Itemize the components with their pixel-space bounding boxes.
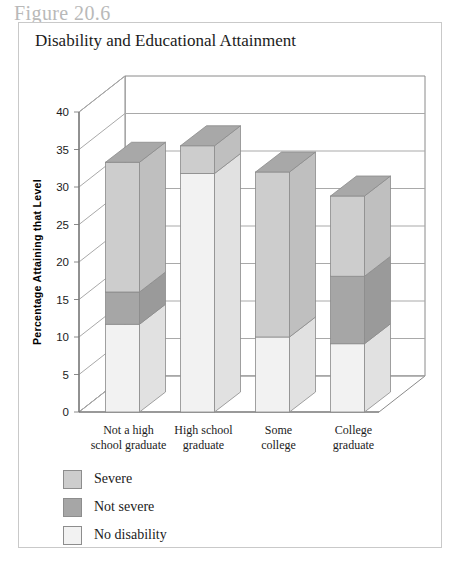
legend-swatch-no-disability bbox=[63, 526, 82, 545]
bar-column bbox=[181, 126, 241, 412]
bar-column bbox=[106, 142, 166, 412]
bar-segment-front bbox=[331, 196, 365, 276]
y-tick-label: 0 bbox=[63, 406, 69, 418]
bar-segment-front bbox=[181, 174, 215, 413]
chart-title: Disability and Educational Attainment bbox=[35, 31, 296, 51]
bar-segment-side bbox=[140, 142, 166, 292]
legend-swatch-not-severe bbox=[63, 498, 82, 517]
x-category-label: Some bbox=[265, 423, 292, 437]
legend-label-no-disability: No disability bbox=[94, 527, 167, 543]
chart-legend: Severe Not severe No disability bbox=[63, 465, 167, 549]
legend-label-severe: Severe bbox=[94, 471, 132, 487]
chart-plot-area: 0510152025303540Not a highschool graduat… bbox=[19, 57, 443, 457]
figure-panel: Disability and Educational Attainment 05… bbox=[18, 22, 442, 548]
stacked-3d-bar-chart: 0510152025303540Not a highschool graduat… bbox=[19, 57, 443, 457]
bar-segment-front bbox=[331, 344, 365, 412]
x-category-label: Not a high bbox=[103, 423, 154, 437]
legend-item-not-severe: Not severe bbox=[63, 493, 167, 521]
bar-segment-side bbox=[290, 152, 316, 337]
y-tick-label: 25 bbox=[56, 219, 69, 231]
x-category-label: High school bbox=[174, 423, 233, 437]
y-tick-label: 40 bbox=[56, 106, 69, 118]
y-tick-label: 10 bbox=[56, 331, 69, 343]
figure-root: Figure 20.6 Disability and Educational A… bbox=[0, 0, 461, 563]
bar-column bbox=[331, 176, 391, 412]
x-category-label: graduate bbox=[333, 438, 374, 452]
x-category-label: college bbox=[261, 438, 296, 452]
legend-item-severe: Severe bbox=[63, 465, 167, 493]
bar-segment-front bbox=[181, 146, 215, 174]
bar-segment-front bbox=[331, 276, 365, 344]
bar-segment-front bbox=[106, 292, 140, 324]
y-axis-title: Percentage Attaining that Level bbox=[31, 179, 43, 345]
y-tick-label: 20 bbox=[56, 256, 69, 268]
y-tick-label: 5 bbox=[63, 369, 69, 381]
y-tick-label: 30 bbox=[56, 181, 69, 193]
bar-segment-front bbox=[256, 172, 290, 337]
legend-item-no-disability: No disability bbox=[63, 521, 167, 549]
x-category-label: school graduate bbox=[91, 438, 167, 452]
x-category-label: College bbox=[335, 423, 372, 437]
bar-segment-front bbox=[106, 324, 140, 412]
bar-column bbox=[256, 152, 316, 412]
bar-segment-front bbox=[256, 337, 290, 412]
legend-swatch-severe bbox=[63, 470, 82, 489]
y-tick-label: 15 bbox=[56, 294, 69, 306]
x-category-label: graduate bbox=[183, 438, 224, 452]
bar-segment-front bbox=[106, 162, 140, 292]
bar-segment-side bbox=[215, 154, 241, 413]
y-tick-label: 35 bbox=[56, 144, 69, 156]
legend-label-not-severe: Not severe bbox=[94, 499, 154, 515]
